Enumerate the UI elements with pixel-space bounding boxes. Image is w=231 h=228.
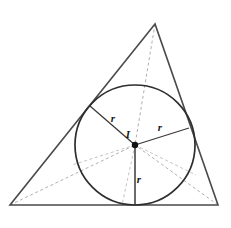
incenter-label: I [125, 128, 131, 140]
bisector-extensions-group [72, 145, 196, 205]
bisector-from-bottom-left [10, 145, 135, 205]
geometry-figure: I r r r [0, 0, 231, 228]
incenter-point [132, 142, 138, 148]
bisector-extension-to-base [122, 145, 135, 205]
figure-canvas: I r r r [0, 0, 231, 228]
bisector-from-bottom-right [135, 145, 218, 205]
bisector-extension-to-right-side [135, 145, 196, 175]
radius-label-bottom: r [137, 173, 142, 185]
radius-label-right: r [158, 121, 163, 133]
bisector-extension-to-left-side [72, 145, 135, 165]
radius-label-left: r [111, 112, 116, 124]
